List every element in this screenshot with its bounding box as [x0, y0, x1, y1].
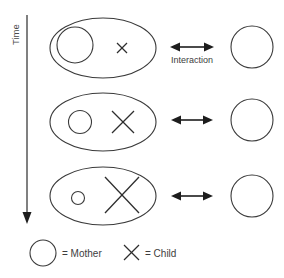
interaction-arrow-2 — [171, 116, 213, 125]
legend-mother-label: = Mother — [62, 248, 102, 259]
interaction-arrowhead-right-2 — [203, 116, 213, 125]
interaction-arrowhead-right-1 — [204, 43, 214, 52]
dyad-ellipse-3 — [50, 167, 156, 225]
legend-child-label: = Child — [145, 248, 176, 259]
child-x-3 — [105, 177, 139, 213]
legend-item-child: = Child — [124, 245, 176, 260]
row-1: Interaction — [50, 18, 273, 78]
time-axis-arrowhead — [23, 212, 32, 224]
interaction-arrow-3 — [171, 192, 213, 201]
interaction-arrowhead-left-1 — [170, 43, 180, 52]
mother-circle-3 — [72, 192, 85, 205]
dyad-ellipse-2 — [50, 93, 156, 151]
interaction-arrowhead-right-3 — [203, 192, 213, 201]
dyad-ellipse-1 — [50, 18, 156, 78]
row-3 — [50, 167, 273, 225]
legend: = Mother = Child — [30, 240, 176, 266]
legend-mother-circle-icon — [30, 240, 56, 266]
child-x-1 — [117, 43, 127, 53]
child-x-2 — [112, 111, 134, 133]
time-axis: Time — [10, 15, 32, 224]
time-axis-label: Time — [10, 24, 21, 45]
interaction-arrowhead-left-2 — [171, 116, 181, 125]
partner-circle-1 — [231, 26, 273, 68]
interaction-arrow-1 — [170, 43, 214, 52]
interaction-label: Interaction — [171, 55, 213, 65]
row-2 — [50, 93, 273, 151]
legend-child-x-icon — [124, 245, 139, 260]
partner-circle-2 — [231, 99, 273, 141]
partner-circle-3 — [231, 175, 273, 217]
mother-child-interaction-diagram: Time Interaction — [0, 0, 284, 278]
interaction-arrowhead-left-3 — [171, 192, 181, 201]
mother-circle-2 — [69, 111, 92, 134]
diagram-canvas: Time Interaction — [0, 0, 284, 278]
legend-item-mother: = Mother — [30, 240, 102, 266]
mother-circle-1 — [57, 27, 93, 63]
